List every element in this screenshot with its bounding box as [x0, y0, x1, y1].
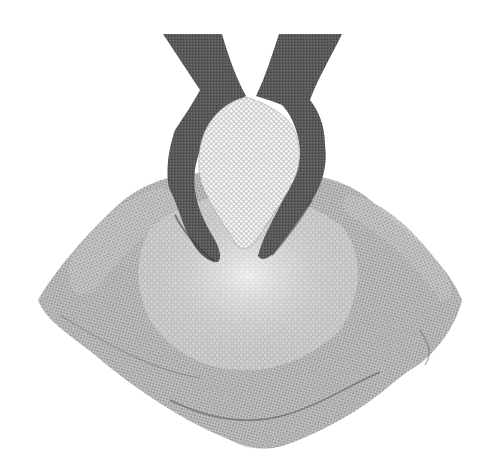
sack-of-grain-photo: [0, 0, 491, 474]
